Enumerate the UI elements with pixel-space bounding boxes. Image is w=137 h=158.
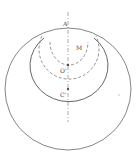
middle-solid-arc: [30, 38, 108, 102]
label-o: O': [60, 67, 67, 74]
dashed-arc-o: [50, 42, 88, 65]
label-m: M: [76, 44, 82, 51]
label-c: C': [60, 91, 67, 98]
label-a: A: [62, 20, 68, 27]
nested-circles-diagram: A M O' C': [0, 0, 137, 158]
point-o: [67, 64, 69, 66]
point-right: [118, 94, 119, 95]
point-c: [67, 88, 69, 90]
dashed-arc-c: [39, 36, 99, 79]
